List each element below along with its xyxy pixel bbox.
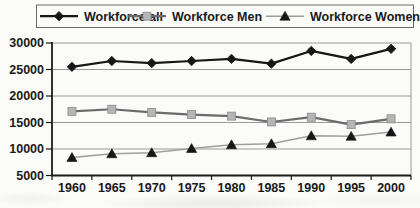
workforce-chart: 5000100001500020000250003000019601965197… xyxy=(0,0,420,208)
scanned-line-chart-figure: 5000100001500020000250003000019601965197… xyxy=(0,0,420,208)
series-workforce-all xyxy=(67,44,396,71)
x-axis-label: 1990 xyxy=(297,181,325,195)
legend-label: Workforce Women xyxy=(310,10,420,24)
square-marker-icon xyxy=(68,107,76,115)
square-marker-icon xyxy=(387,115,395,123)
x-axis-label: 1965 xyxy=(98,181,126,195)
square-marker-icon xyxy=(188,111,196,119)
x-axis-label: 1995 xyxy=(337,181,365,195)
x-axis-label: 1980 xyxy=(218,181,246,195)
y-axis-label: 30000 xyxy=(9,36,44,50)
diamond-marker-icon xyxy=(386,44,395,53)
diamond-marker-icon xyxy=(227,54,236,63)
y-axis-label: 5000 xyxy=(16,169,44,183)
y-axis-label: 15000 xyxy=(9,116,44,130)
y-axis-label: 20000 xyxy=(9,89,44,103)
x-axis-label: 1960 xyxy=(58,181,86,195)
square-marker-icon xyxy=(347,121,355,129)
x-axis-label: 2000 xyxy=(377,181,405,195)
y-axis-label: 10000 xyxy=(9,142,44,156)
diamond-marker-icon xyxy=(346,54,355,63)
diamond-marker-icon xyxy=(107,56,116,65)
diamond-marker-icon xyxy=(187,56,196,65)
legend-square-marker-icon xyxy=(143,12,151,20)
x-axis-label: 1975 xyxy=(178,181,206,195)
legend-diamond-marker-icon xyxy=(54,12,63,21)
x-axis-label: 1970 xyxy=(138,181,166,195)
legend-label: Workforce Men xyxy=(172,10,262,24)
legend: Workforce allWorkforce MenWorkforce Wome… xyxy=(37,5,420,28)
square-marker-icon xyxy=(228,112,236,120)
triangle-marker-icon xyxy=(386,127,396,136)
diamond-marker-icon xyxy=(267,59,276,68)
series-workforce-women xyxy=(67,127,396,161)
square-marker-icon xyxy=(108,105,116,113)
diamond-marker-icon xyxy=(147,58,156,67)
x-axis-label: 1985 xyxy=(257,181,285,195)
diamond-marker-icon xyxy=(67,62,76,71)
legend-item-workforce-women: Workforce Women xyxy=(266,10,420,24)
y-axis-label: 25000 xyxy=(9,63,44,77)
series-workforce-men xyxy=(68,105,395,128)
square-marker-icon xyxy=(267,118,275,126)
square-marker-icon xyxy=(148,108,156,116)
diamond-marker-icon xyxy=(307,46,316,55)
square-marker-icon xyxy=(307,113,315,121)
